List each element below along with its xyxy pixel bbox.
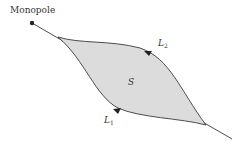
loop-l2-label: L2	[157, 38, 168, 49]
monopole-dot	[30, 21, 34, 25]
surface-label: S	[128, 77, 134, 87]
loop-l1-label-sub: 1	[110, 119, 114, 126]
monopole-diagram: Monopole S L2 L1	[0, 0, 243, 144]
loop-l2-label-main: L	[157, 38, 164, 48]
loop-l1-label: L1	[103, 115, 114, 126]
monopole-label: Monopole	[10, 5, 55, 15]
arrow-l1-icon	[113, 108, 121, 114]
loop-l1-label-main: L	[103, 115, 110, 125]
loop-l2-label-sub: 2	[164, 42, 168, 49]
